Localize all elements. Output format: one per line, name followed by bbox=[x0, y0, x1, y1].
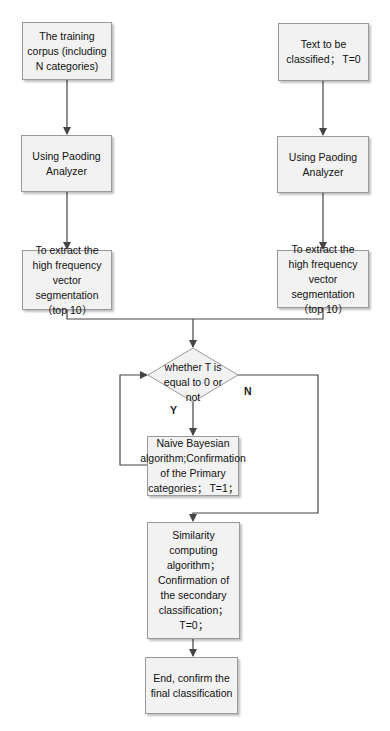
decision-text: whether T is equal to 0 or not bbox=[158, 360, 228, 405]
paoding-left-box: Using Paoding Analyzer bbox=[21, 135, 112, 192]
end-text: End, confirm the final classification bbox=[149, 671, 234, 701]
extract-right-box: To extract the high frequency vector seg… bbox=[277, 250, 369, 308]
paoding-right-box: Using Paoding Analyzer bbox=[277, 136, 369, 193]
extract-left-box: To extract the high frequency vector seg… bbox=[22, 250, 112, 310]
yes-label: Y bbox=[170, 404, 177, 416]
paoding-left-text: Using Paoding Analyzer bbox=[25, 149, 108, 179]
text-input-box: Text to be classified； T=0 bbox=[278, 23, 369, 81]
extract-left-text: To extract the high frequency vector seg… bbox=[26, 243, 108, 318]
naive-bayes-text: Naive Bayesian algorithm;Confirmation of… bbox=[140, 436, 246, 496]
similarity-box: Similarity computing algorithm； Confirma… bbox=[147, 522, 240, 639]
extract-right-text: To extract the high frequency vector seg… bbox=[281, 242, 365, 317]
training-corpus-box: The training corpus (including N categor… bbox=[22, 22, 112, 80]
training-corpus-text: The training corpus (including N categor… bbox=[26, 29, 108, 74]
no-label: N bbox=[244, 385, 252, 397]
similarity-text: Similarity computing algorithm； Confirma… bbox=[151, 528, 236, 633]
naive-bayes-box: Naive Bayesian algorithm;Confirmation of… bbox=[147, 436, 239, 496]
text-input-text: Text to be classified； T=0 bbox=[282, 37, 365, 67]
end-box: End, confirm the final classification bbox=[145, 657, 238, 714]
paoding-right-text: Using Paoding Analyzer bbox=[281, 150, 365, 180]
